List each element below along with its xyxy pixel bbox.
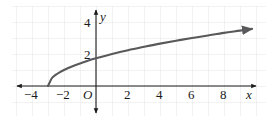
- x-tick-label-neg4: −4: [24, 88, 38, 101]
- coordinate-plane: [0, 0, 273, 122]
- x-tick-label-4: 4: [156, 88, 163, 101]
- y-tick-label-4: 4: [84, 16, 91, 29]
- origin-label: O: [83, 88, 92, 101]
- y-axis-label: y: [100, 10, 106, 23]
- x-axis-label: x: [246, 88, 252, 101]
- x-tick-label-8: 8: [220, 88, 227, 101]
- grid-lines: [12, 6, 266, 116]
- x-tick-label-2: 2: [124, 88, 131, 101]
- x-tick-label-6: 6: [188, 88, 195, 101]
- y-tick-label-2: 2: [84, 48, 91, 61]
- graph-figure: −4 −2 O 2 4 6 8 2 4 x y: [0, 0, 273, 122]
- x-tick-label-neg2: −2: [56, 88, 70, 101]
